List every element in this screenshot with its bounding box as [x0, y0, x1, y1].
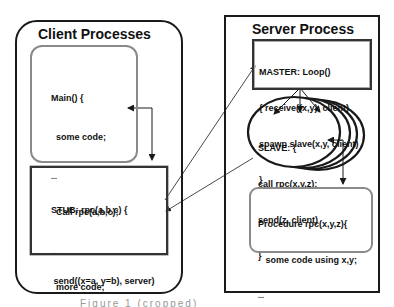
master-line: { receive((x,y), client) [259, 102, 358, 114]
stub-line [51, 243, 155, 249]
procedure-rpc-box: Procedure rpc(x,y,z){ some code using x,… [249, 187, 373, 253]
slave-line: SLAVE: { [258, 142, 318, 154]
main-line: Main() { [51, 92, 119, 105]
main-code-box: Main() { some code; ... Call rpc(a,b,c);… [30, 45, 138, 163]
master-loop-box: MASTER: Loop() { receive((x,y), client) … [252, 39, 372, 90]
stub-line: send((x=a, y=b), server) [51, 275, 155, 288]
figure-caption: Figure 1 (cropped) [80, 298, 198, 307]
proc-line: ... [258, 290, 357, 299]
stub-line: STUB: rpc(a,b,c) { [51, 204, 155, 217]
server-process-title: Server Process [252, 21, 354, 37]
proc-line: Procedure rpc(x,y,z){ [258, 218, 357, 230]
main-line: some code; [51, 131, 119, 144]
stub-code-box: STUB: rpc(a,b,c) { send((x=a, y=b), serv… [30, 166, 168, 255]
master-line: MASTER: Loop() [259, 66, 358, 78]
proc-line: some code using x,y; [258, 254, 357, 266]
client-processes-title: Client Processes [38, 26, 151, 42]
